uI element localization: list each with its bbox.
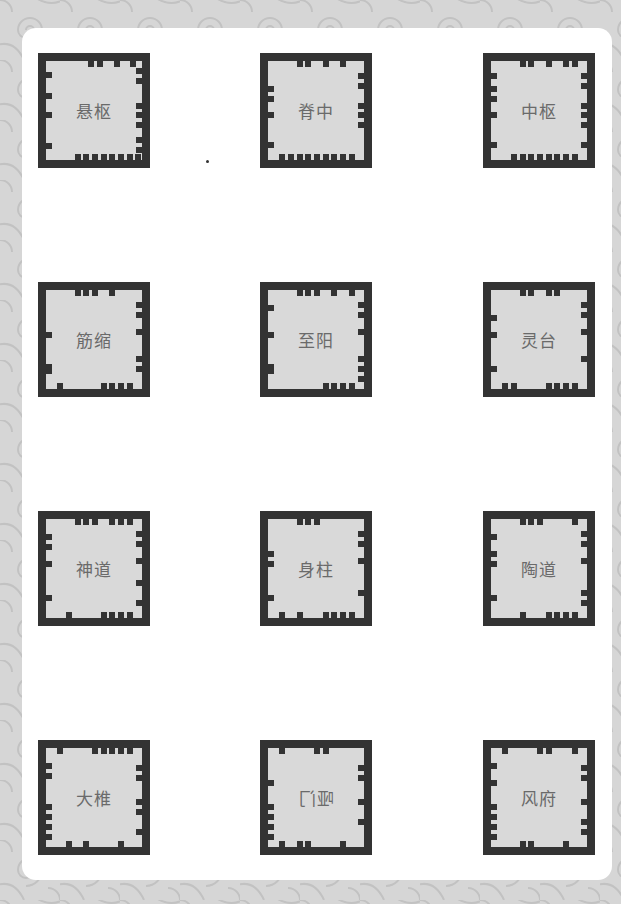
border-notch xyxy=(136,356,142,362)
border-notch xyxy=(46,544,52,550)
border-notch xyxy=(572,154,578,160)
border-notch xyxy=(75,290,81,296)
border-notch xyxy=(581,312,587,318)
border-notch xyxy=(323,748,329,754)
border-notch xyxy=(358,103,364,109)
border-notch xyxy=(581,590,587,596)
border-notch xyxy=(268,804,274,810)
border-notch xyxy=(581,356,587,362)
border-notch xyxy=(268,834,274,840)
border-notch xyxy=(349,154,355,160)
border-notch xyxy=(136,829,142,835)
border-notch xyxy=(75,519,81,525)
border-notch xyxy=(136,112,142,118)
border-notch xyxy=(581,142,587,148)
border-notch xyxy=(546,290,552,296)
acupoint-tile[interactable]: 哑门 xyxy=(260,740,372,855)
acupoint-tile[interactable]: 至阳 xyxy=(260,282,372,397)
border-notch xyxy=(554,612,560,618)
border-notch xyxy=(92,519,98,525)
acupoint-tile[interactable]: 脊中 xyxy=(260,53,372,168)
border-notch xyxy=(502,383,508,389)
border-notch xyxy=(358,302,364,308)
border-notch xyxy=(136,366,142,372)
border-notch xyxy=(358,558,364,564)
acupoint-tile[interactable]: 中枢 xyxy=(483,53,595,168)
border-notch xyxy=(297,154,303,160)
border-notch xyxy=(491,73,497,79)
border-notch xyxy=(46,773,52,779)
border-notch xyxy=(268,142,274,148)
acupoint-tile[interactable]: 风府 xyxy=(483,740,595,855)
border-notch xyxy=(358,799,364,805)
border-notch xyxy=(491,561,497,567)
border-notch xyxy=(358,590,364,596)
border-notch xyxy=(358,312,364,318)
tile-face: 至阳 xyxy=(268,290,364,389)
border-notch xyxy=(581,83,587,89)
border-notch xyxy=(358,765,364,771)
border-notch xyxy=(491,142,497,148)
border-notch xyxy=(101,154,107,160)
border-notch xyxy=(581,765,587,771)
acupoint-tile[interactable]: 身柱 xyxy=(260,511,372,626)
border-notch xyxy=(546,154,552,160)
border-notch xyxy=(581,531,587,537)
border-notch xyxy=(358,329,364,335)
border-notch xyxy=(581,600,587,606)
border-notch xyxy=(349,612,355,618)
border-notch xyxy=(46,72,52,78)
border-notch xyxy=(491,763,497,769)
border-notch xyxy=(46,834,52,840)
border-notch xyxy=(305,290,311,296)
border-notch xyxy=(528,519,534,525)
tile-label: 至阳 xyxy=(298,327,334,352)
border-notch xyxy=(118,612,124,618)
border-notch xyxy=(572,612,578,618)
border-notch xyxy=(109,748,115,754)
tile-face: 哑门 xyxy=(268,748,364,847)
border-notch xyxy=(57,748,63,754)
border-notch xyxy=(66,612,72,618)
border-notch xyxy=(83,154,89,160)
acupoint-tile[interactable]: 大椎 xyxy=(38,740,150,855)
border-notch xyxy=(314,290,320,296)
tile-face: 身柱 xyxy=(268,519,364,618)
border-notch xyxy=(136,558,142,564)
border-notch xyxy=(358,541,364,547)
border-notch xyxy=(340,154,346,160)
border-notch xyxy=(491,315,497,321)
border-notch xyxy=(305,61,311,67)
border-notch xyxy=(358,83,364,89)
border-notch xyxy=(83,841,89,847)
border-notch xyxy=(136,137,142,143)
border-notch xyxy=(563,383,569,389)
tile-label: 中枢 xyxy=(521,98,557,123)
border-notch xyxy=(127,748,133,754)
border-notch xyxy=(572,383,578,389)
border-notch xyxy=(46,93,52,99)
acupoint-tile[interactable]: 灵台 xyxy=(483,282,595,397)
border-notch xyxy=(118,154,124,160)
border-notch xyxy=(511,154,517,160)
border-notch xyxy=(268,305,274,311)
acupoint-tile[interactable]: 陶道 xyxy=(483,511,595,626)
border-notch xyxy=(502,748,508,754)
acupoint-tile[interactable]: 神道 xyxy=(38,511,150,626)
border-notch xyxy=(75,154,81,160)
border-notch xyxy=(563,841,569,847)
acupoint-tile[interactable]: 筋缩 xyxy=(38,282,150,397)
border-notch xyxy=(268,551,274,557)
border-notch xyxy=(297,290,303,296)
border-notch xyxy=(331,612,337,618)
border-notch xyxy=(314,154,320,160)
border-notch xyxy=(279,748,285,754)
border-notch xyxy=(546,748,552,754)
border-notch xyxy=(268,96,274,102)
border-notch xyxy=(491,112,497,118)
border-notch xyxy=(135,154,141,160)
border-notch xyxy=(268,112,274,118)
border-notch xyxy=(340,612,346,618)
acupoint-tile[interactable]: 悬枢 xyxy=(38,53,150,168)
tile-label: 神道 xyxy=(76,556,112,581)
